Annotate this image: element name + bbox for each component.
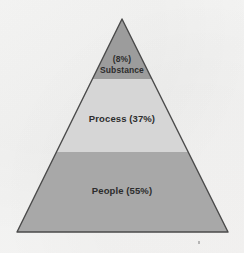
scan-speck-artifact (198, 241, 200, 244)
tier-band-substance (0, 0, 244, 79)
tier-band-process (0, 79, 244, 152)
pyramid-diagram: (8%) Substance Process (37%) People (55%… (0, 0, 244, 253)
pyramid-svg (0, 0, 244, 253)
